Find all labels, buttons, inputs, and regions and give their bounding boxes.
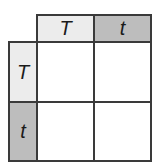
left-header-dominant: T <box>8 41 38 103</box>
top-header-dominant: T <box>36 14 95 43</box>
left-header-recessive: t <box>8 101 38 162</box>
top-header-recessive: t <box>93 14 152 43</box>
cell-tt <box>93 101 152 162</box>
cell-Tt-top <box>93 41 152 103</box>
cell-Tt-bottom <box>36 101 95 162</box>
cell-TT <box>36 41 95 103</box>
